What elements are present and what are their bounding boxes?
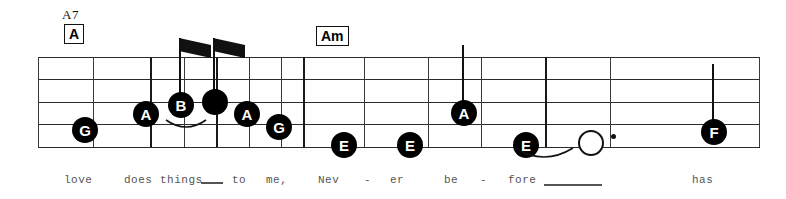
lyric-extension-fore	[544, 184, 602, 186]
slur-b-to-unlabeled	[164, 118, 208, 136]
barline-m3-a	[610, 57, 611, 147]
lyric-hyphen-2: -	[480, 174, 487, 186]
barline-measure-1-end	[303, 57, 305, 147]
lyric-does: does	[124, 174, 152, 186]
note-g-1-head: G	[72, 117, 98, 143]
note-a-3-head: A	[451, 100, 477, 126]
note-b-1-flag	[179, 38, 213, 64]
note-f-1-head: F	[701, 119, 727, 145]
lyric-fore: fore	[508, 174, 536, 186]
lyric-has: has	[692, 174, 713, 186]
note-e-2-head: E	[397, 132, 423, 158]
barline-m2-b	[428, 57, 429, 147]
barline-m1-open	[38, 57, 39, 147]
lyric-extension-things	[201, 182, 223, 184]
note-hollow-1-augmentation-dot	[611, 134, 616, 139]
note-e-1-head: E	[331, 132, 357, 158]
note-unlabeled-1-flag	[213, 38, 247, 64]
note-a-1-head: A	[133, 101, 159, 127]
lyric-nev: Nev	[318, 174, 339, 186]
chord-symbol-a7: A7	[62, 7, 79, 23]
lyric-love: love	[64, 174, 92, 186]
lyric-be: be	[444, 174, 458, 186]
note-hollow-1-head	[578, 130, 604, 156]
sheet-music-excerpt: A7AAmGABAGEEAEFlovedoesthingstome,Nev-er…	[0, 0, 786, 199]
barline-staff-end	[759, 57, 760, 147]
note-g-2-head: G	[266, 114, 292, 140]
note-a-2-head: A	[234, 101, 260, 127]
chord-box-am: Am	[316, 26, 349, 46]
tie-e-to-hollow	[513, 146, 575, 168]
barline-m2-c	[481, 57, 482, 147]
staff-line-1	[38, 57, 760, 58]
lyric-hyphen-1: -	[364, 174, 371, 186]
note-unlabeled-1-head	[202, 89, 228, 115]
lyric-me: me,	[266, 174, 287, 186]
staff-line-2	[38, 79, 760, 80]
chord-box-a: A	[64, 24, 84, 44]
lyric-er: er	[390, 174, 404, 186]
barline-m2-a	[364, 57, 365, 147]
lyric-things: things	[160, 174, 203, 186]
note-b-1-head: B	[168, 92, 194, 118]
lyric-to: to	[232, 174, 246, 186]
barline-measure-2-end	[545, 57, 547, 147]
